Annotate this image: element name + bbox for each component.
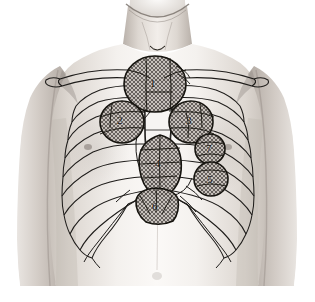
marker-region-2[interactable] bbox=[100, 101, 144, 143]
marker-region-6[interactable] bbox=[136, 188, 179, 224]
marker-region-7[interactable] bbox=[195, 134, 225, 164]
chest-auscultation-figure: 1 2 3 4 5 6 7 bbox=[0, 0, 315, 302]
marker-region-5[interactable] bbox=[194, 162, 228, 196]
anatomy-neck bbox=[123, 0, 192, 52]
figure-canvas bbox=[0, 0, 315, 302]
